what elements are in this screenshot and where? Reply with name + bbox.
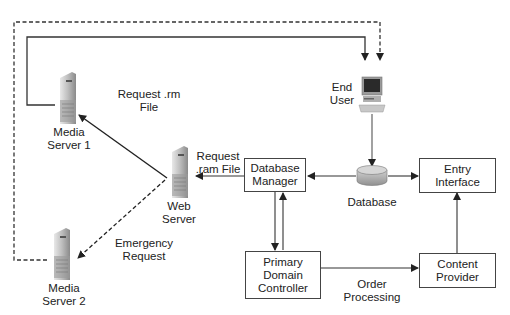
request-rm-file-label: Request .rm File [112, 88, 186, 114]
order-processing-label: Order Processing [338, 278, 406, 304]
server-tower-icon [172, 146, 188, 198]
server-tower-icon [60, 72, 76, 124]
end-user-label: End User [326, 81, 358, 107]
desktop-computer-icon [359, 77, 385, 112]
content-provider-box: Content Provider [419, 253, 496, 288]
database-cylinder-icon [357, 166, 387, 186]
entry-interface-box: Entry Interface [419, 158, 496, 193]
edge-media-server-1-to-end-user [27, 37, 365, 105]
database-manager-box: Database Manager [244, 158, 306, 192]
web-server-label: Web Server [154, 200, 204, 226]
database-label: Database [342, 196, 402, 209]
request-ram-file-label: Request .ram File [193, 150, 243, 176]
emergency-request-label: Emergency Request [112, 237, 176, 263]
media-server-2-label: Media Server 2 [38, 282, 90, 308]
primary-domain-controller-box: Primary Domain Controller [245, 251, 321, 299]
media-server-1-label: Media Server 1 [44, 126, 94, 152]
server-tower-icon [54, 228, 70, 280]
